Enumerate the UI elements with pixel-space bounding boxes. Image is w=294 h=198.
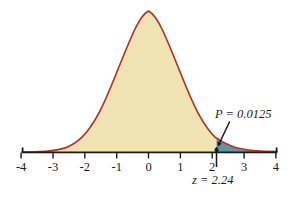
x-tick-label--2: -2 — [75, 161, 95, 174]
normal-curve-figure: -4 -3 -2 -1 0 1 2 3 4 P = 0.0125 z = 2.2… — [0, 0, 294, 198]
curve-body-fill — [22, 11, 217, 152]
x-tick-label--3: -3 — [43, 161, 63, 174]
x-tick-label-4: 4 — [266, 161, 286, 174]
x-tick-label--4: -4 — [11, 161, 31, 174]
x-tick-label-1: 1 — [170, 161, 190, 174]
x-tick-label-3: 3 — [234, 161, 254, 174]
x-tick-label-2: 2 — [202, 161, 222, 174]
p-value-annotation: P = 0.0125 — [215, 108, 271, 121]
p-label-leader-line — [219, 122, 230, 145]
z-value-annotation: z = 2.24 — [192, 174, 233, 187]
x-tick-label--1: -1 — [107, 161, 127, 174]
x-tick-label-0: 0 — [139, 161, 159, 174]
z-marker-dot — [214, 148, 218, 152]
